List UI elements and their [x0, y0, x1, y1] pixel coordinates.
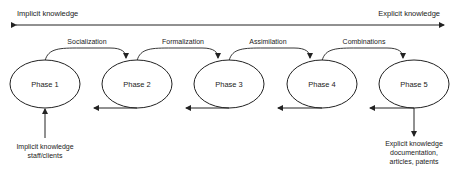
- output-label-line3: articles, patents: [389, 158, 439, 166]
- phase-3-node: Phase 3: [194, 60, 264, 108]
- output-label-line2: documentation,: [390, 149, 438, 156]
- output-label-line1: Explicit knowledge: [385, 140, 443, 148]
- knowledge-phases-diagram: Implicit knowledge Explicit knowledge So…: [0, 0, 458, 172]
- explicit-knowledge-axis-label: Explicit knowledge: [378, 9, 440, 18]
- phase-4-node: Phase 4: [287, 60, 357, 108]
- transition-label-formalization: Formalization: [162, 38, 204, 45]
- assimilation-arrow: [229, 48, 310, 61]
- transition-label-combinations: Combinations: [343, 38, 386, 45]
- phase-1-label: Phase 1: [31, 80, 59, 89]
- phase-2-label: Phase 2: [123, 80, 151, 89]
- socialization-arrow: [45, 48, 126, 61]
- input-label-line2: staff/clients: [28, 152, 63, 159]
- combinations-arrow: [322, 48, 403, 61]
- transition-label-socialization: Socialization: [67, 38, 106, 45]
- phase-1-node: Phase 1: [10, 60, 80, 108]
- implicit-knowledge-axis-label: Implicit knowledge: [17, 9, 78, 18]
- input-label-line1: Implicit knowledge: [16, 143, 73, 151]
- transition-label-assimilation: Assimilation: [249, 38, 286, 45]
- phase-5-node: Phase 5: [379, 60, 449, 108]
- phase-3-label: Phase 3: [215, 80, 243, 89]
- phase-5-label: Phase 5: [400, 80, 428, 89]
- phase-2-node: Phase 2: [102, 60, 172, 108]
- formalization-arrow: [137, 48, 218, 61]
- phase-4-label: Phase 4: [308, 80, 336, 89]
